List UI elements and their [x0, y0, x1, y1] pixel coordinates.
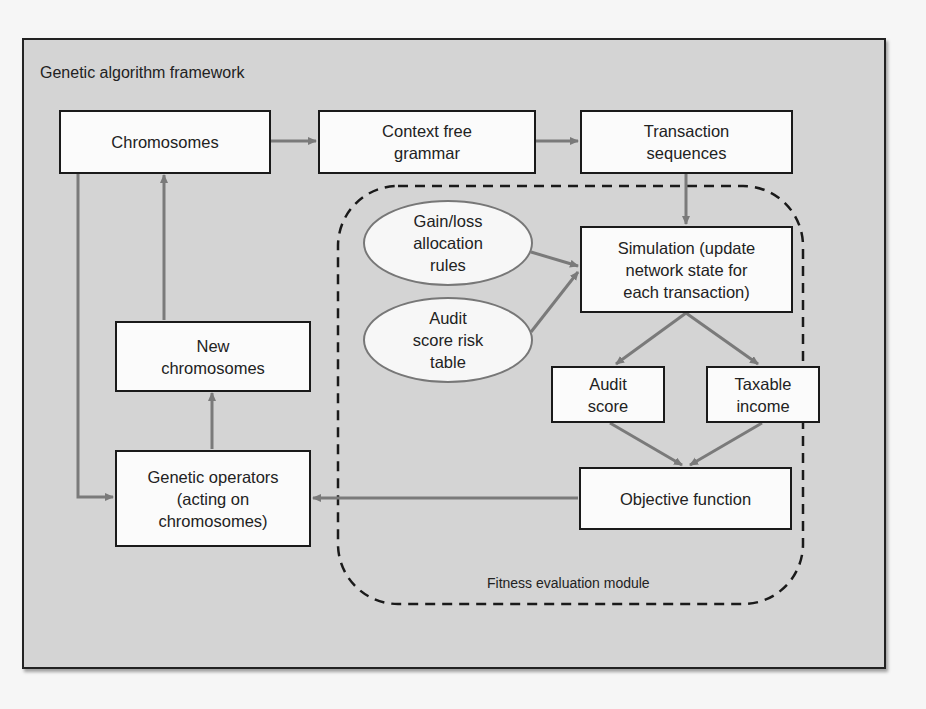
fitness-module-label: Fitness evaluation module	[487, 575, 650, 591]
node-audit-score: Audit score	[551, 366, 665, 423]
arrow-auditrisk-to-simulation	[531, 272, 578, 332]
node-objective-function: Objective function	[579, 467, 792, 530]
node-simulation: Simulation (update network state for eac…	[580, 226, 793, 313]
arrow-gainloss-to-simulation	[531, 252, 578, 266]
node-new-chromosomes: New chromosomes	[115, 321, 311, 392]
arrow-chromosomes-to-operators	[78, 174, 113, 497]
node-context-free-grammar: Context free grammar	[318, 110, 536, 174]
node-genetic-operators: Genetic operators (acting on chromosomes…	[115, 450, 311, 547]
arrow-taxable-to-objective	[690, 423, 762, 465]
node-audit-score-risk-table: Audit score risk table	[363, 297, 533, 383]
arrow-simulation-to-auditscore	[616, 313, 686, 364]
node-transaction-sequences: Transaction sequences	[580, 110, 793, 174]
node-taxable-income: Taxable income	[706, 366, 820, 423]
arrow-simulation-to-taxable	[686, 313, 758, 364]
node-chromosomes: Chromosomes	[59, 110, 271, 174]
arrow-auditscore-to-objective	[610, 423, 682, 465]
node-gain-loss-allocation-rules: Gain/loss allocation rules	[363, 200, 533, 286]
